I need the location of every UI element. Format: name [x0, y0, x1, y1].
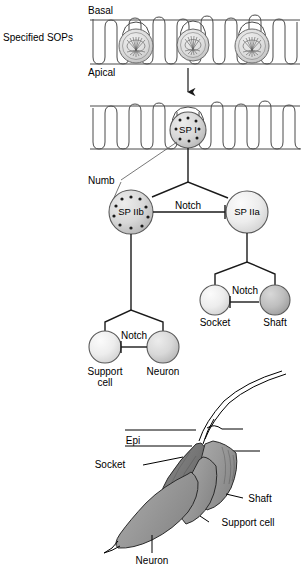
shaft-node: [260, 285, 290, 315]
dividing-sop-cell-1: [119, 22, 153, 63]
socket-label: Socket: [200, 317, 231, 328]
epithelium-second-panel: SP I: [90, 101, 301, 149]
apical-label: Apical: [88, 67, 115, 78]
support-cell-leader: [200, 516, 209, 522]
basal-label: Basal: [88, 5, 113, 16]
notch-label-1: Notch: [175, 200, 201, 211]
support-cell-node: [89, 331, 121, 363]
edge-spiib-to-daughters: [105, 310, 163, 331]
support-cell-label: Support: [87, 366, 122, 377]
neuron-node: [147, 331, 179, 363]
bristle-organ-panel: Epi Socket Shaft Support cell Neuron: [95, 371, 286, 566]
epithelium-top-panel: Specified SOPs Basal Apical: [3, 5, 300, 92]
sp-iia-label: SP IIa: [234, 206, 260, 217]
socket-node: [200, 285, 230, 315]
bristle-hair: [199, 371, 286, 444]
dividing-sop-cell-2: [177, 21, 209, 61]
socket-leader: [143, 457, 183, 465]
numb-label: Numb: [88, 175, 115, 186]
sp-iib-cell: SP IIb: [109, 190, 153, 234]
edge-spi-to-daughters: [152, 182, 228, 198]
neuron-label: Neuron: [147, 366, 180, 377]
notch-inhibition-iib-to-iia: Notch: [153, 200, 225, 219]
shaft-leader: [226, 494, 243, 498]
sp-iia-cell: SP IIa: [226, 191, 268, 233]
organ-shaft-label: Shaft: [248, 493, 272, 504]
lineage-tree: Numb SP IIb SP II: [87, 142, 290, 388]
notch-label-2: Notch: [121, 330, 147, 341]
organ-support-cell-label: Support cell: [222, 517, 275, 528]
figure-canvas: Specified SOPs Basal Apical: [0, 0, 305, 568]
support-cell-label-line2: cell: [97, 377, 112, 388]
specified-sops-label: Specified SOPs: [3, 32, 73, 43]
organ-neuron-label: Neuron: [136, 555, 169, 566]
notch-inhibition-neuron-to-support: Notch: [121, 330, 147, 353]
neuron-cell-shape: [116, 472, 198, 548]
sp-i-cell: SP I: [170, 107, 206, 148]
sop-lineage-figure: Specified SOPs Basal Apical: [0, 0, 305, 568]
shaft-label: Shaft: [263, 317, 287, 328]
epi-label: Epi: [126, 435, 140, 446]
dividing-sop-cell-3: [235, 22, 269, 63]
sp-i-label: SP I: [179, 124, 197, 135]
notch-label-3: Notch: [232, 285, 258, 296]
notch-inhibition-shaft-to-socket: Notch: [230, 285, 259, 308]
numb-leader-to-sp-i: [121, 142, 177, 180]
edge-spiia-to-daughters: [215, 262, 275, 285]
organ-socket-label: Socket: [95, 459, 126, 470]
sp-iib-label: SP IIb: [118, 206, 144, 217]
